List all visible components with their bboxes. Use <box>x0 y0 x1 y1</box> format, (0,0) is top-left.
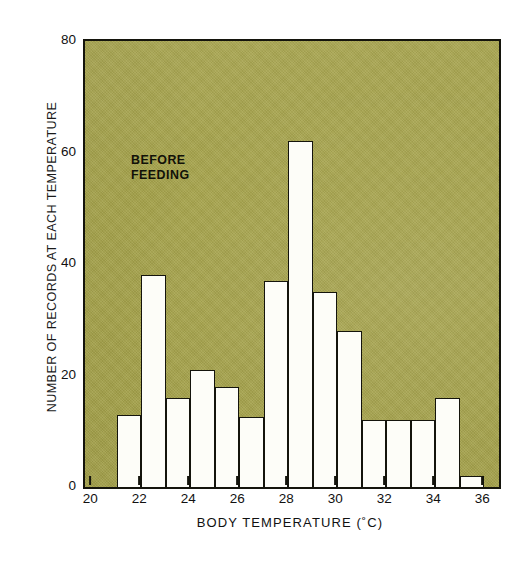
annotation-line-1: BEFORE <box>131 153 190 168</box>
y-tick-label-60: 60 <box>28 143 83 158</box>
x-tick-label-22: 22 <box>132 491 147 506</box>
bar-25-26 <box>215 387 239 487</box>
bar-series <box>85 41 499 487</box>
annotation-line-2: FEEDING <box>131 168 190 183</box>
y-axis-tick-labels: 0 20 40 60 80 <box>28 0 83 561</box>
x-tick-mark-28 <box>285 476 287 485</box>
bar-24-25 <box>190 370 214 487</box>
histogram-figure: NUMBER OF RECORDS AT EACH TEMPERATURE 0 … <box>0 0 527 561</box>
bar-32-33 <box>386 420 410 487</box>
x-tick-label-20: 20 <box>83 491 98 506</box>
chart-annotation: BEFORE FEEDING <box>131 153 190 182</box>
bar-23-24 <box>166 398 190 487</box>
x-tick-label-34: 34 <box>426 491 441 506</box>
bar-30-31 <box>337 331 361 487</box>
y-tick-label-0: 0 <box>28 478 83 493</box>
x-tick-label-32: 32 <box>377 491 392 506</box>
y-tick-label-80: 80 <box>28 32 83 47</box>
bar-26-27 <box>239 417 263 487</box>
x-tick-label-28: 28 <box>279 491 294 506</box>
x-tick-label-26: 26 <box>230 491 245 506</box>
x-tick-mark-34 <box>432 476 434 485</box>
x-tick-mark-32 <box>383 476 385 485</box>
x-tick-mark-24 <box>187 476 189 485</box>
x-tick-mark-30 <box>334 476 336 485</box>
bar-22-23 <box>141 275 165 487</box>
bar-28-29 <box>288 141 312 487</box>
plot-area: BEFORE FEEDING <box>83 39 501 489</box>
x-tick-label-24: 24 <box>181 491 196 506</box>
x-tick-mark-36 <box>481 476 483 485</box>
y-tick-label-40: 40 <box>28 255 83 270</box>
bar-34-35 <box>435 398 459 487</box>
bar-29-30 <box>313 292 337 487</box>
y-tick-label-20: 20 <box>28 366 83 381</box>
bar-27-28 <box>264 281 288 487</box>
x-tick-mark-20 <box>89 476 91 485</box>
x-tick-label-30: 30 <box>328 491 343 506</box>
x-tick-mark-22 <box>138 476 140 485</box>
x-axis-title: BODY TEMPERATURE (˚C) <box>83 515 497 530</box>
x-tick-mark-26 <box>236 476 238 485</box>
x-tick-label-36: 36 <box>475 491 490 506</box>
